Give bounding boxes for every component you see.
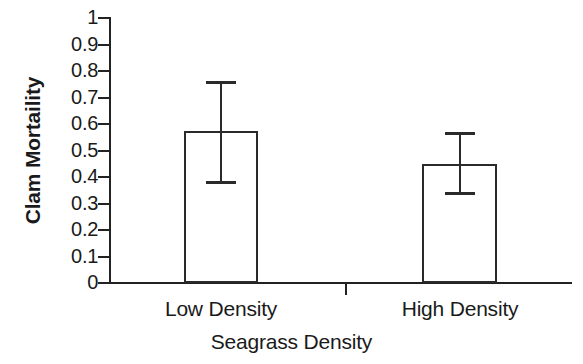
y-tick-label: 1 — [40, 6, 98, 29]
y-axis-tick — [98, 150, 109, 152]
error-bar-cap-upper-low-density — [206, 81, 236, 84]
y-tick-label: 0.8 — [40, 59, 98, 82]
x-axis-line — [98, 282, 572, 284]
y-tick-label: 0 — [40, 271, 98, 294]
x-axis-tick — [345, 284, 347, 295]
y-tick-label: 0.9 — [40, 33, 98, 56]
y-tick-label: 0.5 — [40, 139, 98, 162]
y-tick-label: 0.2 — [40, 218, 98, 241]
y-tick-label: 0.6 — [40, 112, 98, 135]
y-axis-tick — [98, 70, 109, 72]
y-tick-label: 0.1 — [40, 245, 98, 268]
error-bar-cap-lower-low-density — [206, 181, 236, 184]
y-axis-tick — [98, 44, 109, 46]
y-axis-tick — [98, 123, 109, 125]
x-category-label-low-density: Low Density — [131, 297, 311, 321]
x-category-label-high-density: High Density — [370, 297, 550, 321]
x-axis-title: Seagrass Density — [0, 330, 583, 354]
error-bar-line-low-density — [220, 82, 222, 183]
error-bar-cap-lower-high-density — [445, 192, 475, 195]
y-tick-label: 0.4 — [40, 165, 98, 188]
y-axis-tick — [98, 203, 109, 205]
y-axis-tick — [98, 176, 109, 178]
y-axis-tick — [98, 17, 109, 19]
y-axis-tick — [98, 256, 109, 258]
error-bar-cap-upper-high-density — [445, 132, 475, 135]
bar-chart-figure: Clam Mortaility 1 0.9 0.8 0.7 0.6 0.5 0.… — [0, 0, 583, 364]
y-axis-tick — [98, 229, 109, 231]
y-tick-label: 0.7 — [40, 86, 98, 109]
y-axis-line — [109, 17, 111, 284]
error-bar-line-high-density — [459, 133, 461, 194]
y-tick-label: 0.3 — [40, 192, 98, 215]
y-axis-tick — [98, 97, 109, 99]
